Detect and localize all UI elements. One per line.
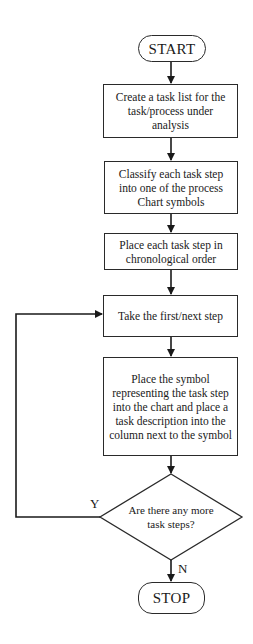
start-label: START [149, 42, 196, 56]
step-place-symbol: Place the symbol representing the task s… [103, 357, 238, 456]
step-label: Place each task step in chronological or… [109, 238, 233, 266]
step-label: Classify each task step into one of the … [109, 167, 233, 209]
step-label: Place the symbol representing the task s… [108, 372, 233, 442]
decision-node: Are there any more task steps? [122, 500, 220, 534]
decision-label: Are there any more task steps? [122, 503, 220, 531]
step-label: Create a task list for the task/process … [108, 90, 233, 132]
step-classify-task: Classify each task step into one of the … [104, 161, 238, 214]
flowchart-canvas: START Create a task list for the task/pr… [0, 0, 253, 644]
arrow-yes-loop [16, 314, 102, 517]
no-edge-label: N [178, 561, 187, 577]
stop-terminal: STOP [138, 582, 205, 614]
yes-edge-label: Y [90, 496, 99, 512]
step-take-next: Take the first/next step [103, 295, 238, 337]
step-label: Take the first/next step [118, 309, 223, 323]
step-create-task-list: Create a task list for the task/process … [103, 84, 238, 138]
start-terminal: START [138, 35, 206, 62]
step-chronological-order: Place each task step in chronological or… [104, 233, 238, 270]
stop-label: STOP [153, 591, 191, 605]
